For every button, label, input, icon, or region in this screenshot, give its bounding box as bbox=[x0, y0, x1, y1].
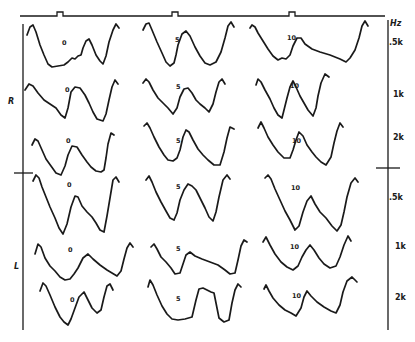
stimulus-timeline bbox=[20, 12, 385, 16]
ear-label-left: L bbox=[14, 262, 19, 271]
condition-label: 0 bbox=[67, 181, 72, 189]
waveform-trace bbox=[250, 21, 368, 62]
waveform-cell: 10 bbox=[265, 175, 358, 231]
waveform-trace bbox=[25, 80, 118, 121]
waveform-trace bbox=[144, 123, 234, 165]
waveform-trace bbox=[143, 22, 234, 66]
waveform-trace bbox=[146, 175, 230, 221]
condition-label: 10 bbox=[292, 137, 302, 145]
frequency-label-r-2k: 2k bbox=[393, 133, 405, 142]
condition-label: 10 bbox=[292, 292, 302, 300]
waveform-row-r-2k: 0510 bbox=[32, 122, 343, 175]
waveform-cell: 5 bbox=[148, 280, 241, 322]
waveform-trace bbox=[256, 74, 329, 118]
waveform-cell: 5 bbox=[143, 22, 234, 66]
waveform-cell: 0 bbox=[32, 133, 114, 175]
waveform-trace bbox=[33, 175, 119, 234]
waveform-trace bbox=[148, 280, 241, 322]
waveform-cell: 10 bbox=[256, 74, 329, 118]
ear-label-right: R bbox=[8, 97, 14, 106]
waveform-trace bbox=[32, 133, 114, 175]
waveform-row-l-2k: 0510 bbox=[40, 277, 357, 325]
condition-label: 0 bbox=[65, 86, 70, 94]
waveform-cell: 10 bbox=[263, 236, 351, 270]
waveform-trace bbox=[143, 79, 225, 114]
condition-label: 0 bbox=[68, 246, 73, 254]
waveform-trace bbox=[35, 243, 133, 280]
condition-label: 0 bbox=[66, 137, 71, 145]
frequency-label-r-1k: 1k bbox=[393, 90, 405, 99]
condition-label: 10 bbox=[290, 82, 300, 90]
waveform-figure: R L Hz .5k 1k 2k .5k 1k 2k 0510051005100… bbox=[0, 0, 415, 342]
condition-label: 10 bbox=[287, 34, 297, 42]
waveform-row-l-1k: 0510 bbox=[35, 236, 351, 280]
waveform-trace bbox=[40, 283, 113, 325]
waveform-row-r-05k: 0510 bbox=[27, 21, 368, 67]
waveform-cell: 0 bbox=[40, 283, 113, 325]
waveform-cell: 5 bbox=[143, 79, 225, 114]
frequency-label-r-05k: .5k bbox=[389, 38, 404, 47]
waveform-grid: 051005100510051005100510 bbox=[25, 21, 368, 325]
frequency-label-l-2k: 2k bbox=[395, 293, 407, 302]
condition-label: 5 bbox=[176, 183, 181, 191]
waveform-cell: 0 bbox=[27, 24, 119, 67]
frequency-unit-label: Hz bbox=[390, 19, 402, 28]
waveform-cell: 5 bbox=[146, 175, 230, 221]
condition-label: 10 bbox=[290, 243, 300, 251]
waveform-cell: 10 bbox=[250, 21, 368, 62]
waveform-trace bbox=[264, 277, 357, 316]
condition-label: 10 bbox=[291, 184, 301, 192]
waveform-cell: 0 bbox=[33, 175, 119, 234]
waveform-cell: 0 bbox=[25, 80, 118, 121]
waveform-row-l-05k: 0510 bbox=[33, 175, 358, 234]
condition-label: 5 bbox=[175, 36, 180, 44]
condition-label: 5 bbox=[176, 295, 181, 303]
waveform-trace bbox=[263, 236, 351, 270]
frequency-label-l-1k: 1k bbox=[395, 242, 407, 251]
waveform-trace bbox=[27, 24, 119, 67]
condition-label: 5 bbox=[176, 137, 181, 145]
waveform-cell: 0 bbox=[35, 243, 133, 280]
waveform-cell: 5 bbox=[151, 240, 247, 274]
waveform-cell: 10 bbox=[264, 277, 357, 316]
condition-label: 0 bbox=[70, 296, 75, 304]
waveform-cell: 5 bbox=[144, 123, 234, 165]
waveform-row-r-1k: 0510 bbox=[25, 74, 329, 121]
waveform-trace bbox=[265, 175, 358, 231]
waveform-cell: 10 bbox=[258, 122, 343, 165]
condition-label: 5 bbox=[176, 83, 181, 91]
waveform-trace bbox=[151, 240, 247, 274]
condition-label: 5 bbox=[176, 245, 181, 253]
frequency-label-l-05k: .5k bbox=[389, 193, 404, 202]
condition-label: 0 bbox=[62, 39, 67, 47]
